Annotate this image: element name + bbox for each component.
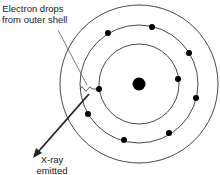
electron-transition-squiggle (80, 87, 96, 91)
electron (166, 130, 172, 136)
xray-emitted-label: X-ray emitted (30, 154, 74, 175)
leader-line (58, 30, 87, 85)
xray-arrow-line (38, 94, 89, 152)
electron (193, 95, 199, 101)
label-line: from outer shell (2, 14, 64, 25)
electron (175, 76, 181, 82)
electron (96, 86, 102, 92)
electron (85, 111, 91, 117)
label-line: emitted (30, 165, 74, 175)
nucleus (133, 78, 146, 91)
electron-drop-label: Electron drops from outer shell (2, 3, 64, 25)
label-line: X-ray (30, 154, 74, 165)
electron (121, 137, 127, 143)
electron (105, 30, 111, 36)
atom-diagram (0, 0, 220, 175)
electron (149, 24, 155, 30)
electron (186, 50, 192, 56)
label-line: Electron drops (2, 3, 64, 14)
